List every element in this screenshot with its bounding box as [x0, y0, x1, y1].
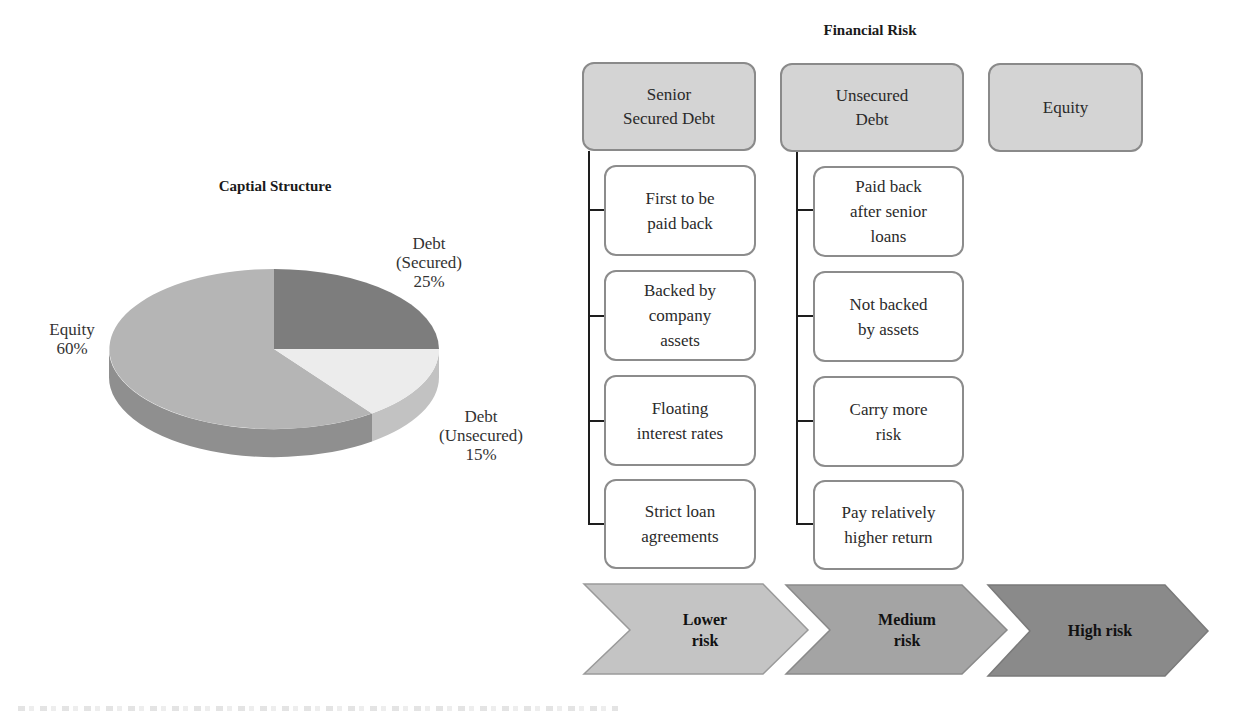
risk-scale-chevrons: [0, 0, 1239, 711]
chevron-label-high-risk: High risk: [1040, 620, 1160, 641]
chevron-label-lower-risk: Lower risk: [650, 609, 760, 651]
figure-caption-cutoff: [18, 706, 618, 711]
chevron-label-medium-risk: Medium risk: [852, 609, 962, 651]
